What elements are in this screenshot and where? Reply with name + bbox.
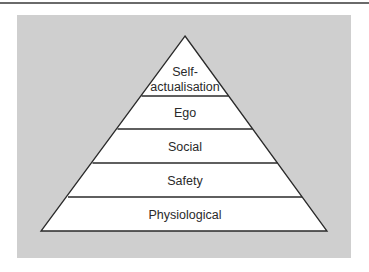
level-safety: Safety (167, 174, 203, 188)
level-social: Social (168, 140, 202, 154)
level-self-actualisation-line2: actualisation (150, 80, 220, 94)
level-ego: Ego (174, 106, 196, 120)
pyramid-diagram: Self- actualisation Ego Social Safety Ph… (0, 0, 369, 272)
level-self-actualisation-line1: Self- (172, 65, 198, 79)
level-physiological: Physiological (149, 208, 222, 222)
